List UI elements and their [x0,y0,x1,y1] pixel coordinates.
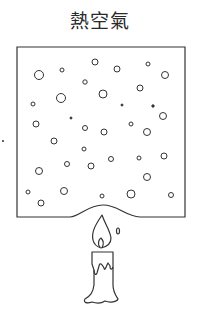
air-particle [144,129,151,136]
air-particle [92,59,98,65]
air-particle [161,153,167,159]
air-particle [101,129,107,135]
air-particle [57,94,66,103]
air-particle [144,174,151,181]
air-particle [26,190,30,194]
air-particle [35,71,44,80]
air-particle [83,80,87,84]
hot-air-diagram [0,0,200,314]
air-particle [114,66,120,72]
air-particle [162,72,169,79]
air-particle [121,104,123,106]
air-particle [83,126,88,131]
air-particle [160,113,167,120]
air-particle [33,121,39,127]
air-particle [127,190,135,198]
air-particle [169,193,174,198]
air-particle [65,162,70,167]
air-particle [109,157,114,162]
air-particle [146,62,150,66]
candle-icon [84,215,119,303]
air-particle [137,85,143,91]
air-particle [88,163,94,169]
stray-dot [2,140,4,142]
air-particle [36,168,43,175]
air-particle [51,138,57,144]
air-particle [129,122,133,126]
air-particle [61,188,68,195]
air-particle [100,194,104,198]
air-particle [38,200,44,206]
air-particle [60,68,64,72]
air-particle [31,102,35,106]
air-particle [152,105,154,107]
air-particle [70,117,72,119]
air-particle [99,90,107,98]
air-particles [26,59,174,206]
air-particle [82,147,86,151]
air-particle [137,156,141,160]
